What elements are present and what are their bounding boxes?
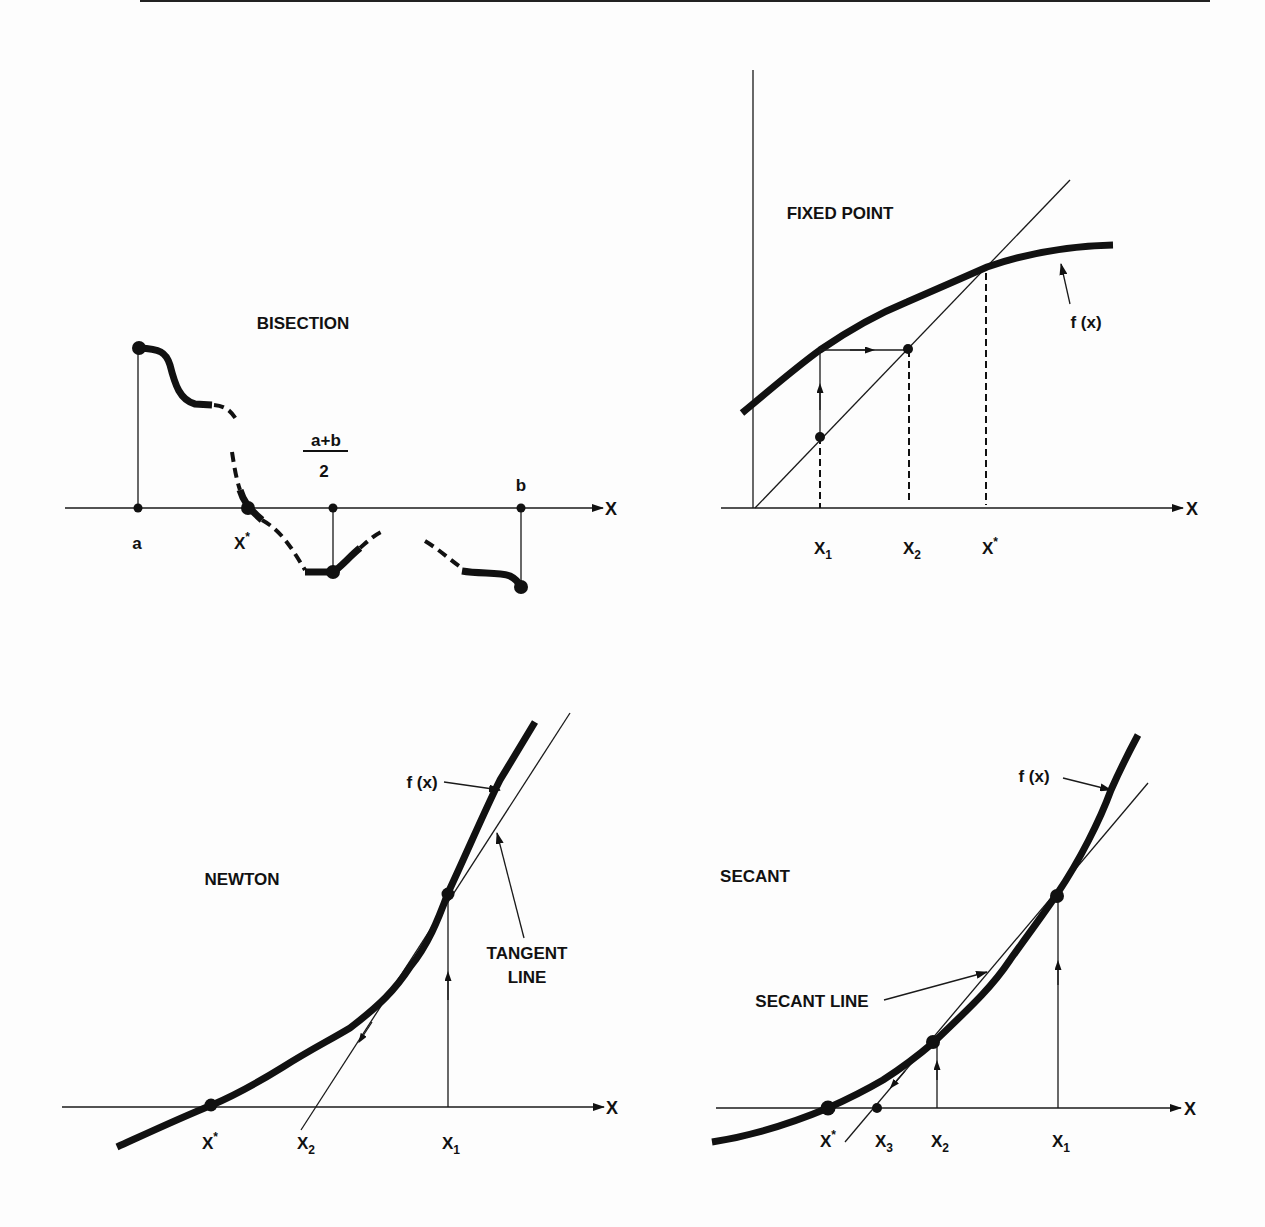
bisection-a-point — [134, 504, 143, 513]
secant-line-label: SECANT LINE — [755, 992, 868, 1011]
bisection-fa-point — [132, 341, 146, 355]
fixed-point-title: FIXED POINT — [787, 204, 894, 223]
fixed-point-curve-label: f (x) — [1070, 313, 1101, 332]
bisection-title: BISECTION — [257, 314, 350, 333]
newton-tangent-label-line2: LINE — [508, 968, 547, 987]
bisection-axis-label: X — [605, 499, 617, 519]
secant-curve — [712, 735, 1138, 1142]
secant-panel: X SECANT f (x) SECANT LINE X* X3 X2 X1 — [712, 735, 1196, 1155]
fixed-point-identity-line — [755, 180, 1070, 508]
fixed-point-axis-label: X — [1186, 499, 1198, 519]
bisection-curve-dashed-3 — [262, 520, 305, 570]
secant-x3-label: X3 — [875, 1132, 893, 1155]
bisection-midpoint-numerator: a+b — [311, 431, 341, 450]
newton-tangent-label-arrow — [497, 833, 524, 938]
bisection-b-label: b — [516, 476, 526, 495]
secant-x3-point — [872, 1103, 882, 1113]
bisection-a-label: a — [132, 534, 142, 553]
newton-axis-label: X — [606, 1098, 618, 1118]
secant-root-label: X* — [820, 1128, 836, 1151]
secant-line-label-arrow — [884, 972, 987, 1000]
newton-x1-point — [442, 888, 455, 901]
newton-curve-label-arrow — [444, 782, 500, 790]
bisection-fmid-point — [326, 565, 340, 579]
figure-svg: BISECTION X a X* a+b 2 b — [0, 0, 1265, 1227]
newton-curve-label: f (x) — [406, 773, 437, 792]
bisection-mid-point — [329, 504, 338, 513]
secant-line — [845, 783, 1148, 1142]
bisection-curve-segment-4 — [462, 571, 521, 587]
newton-root-point — [205, 1099, 218, 1112]
newton-root-label: X* — [202, 1130, 218, 1153]
newton-tangent-label-line1: TANGENT — [487, 944, 569, 963]
newton-panel: X NEWTON f (x) TANGENT LINE X* X2 X1 — [62, 713, 618, 1157]
secant-axis-label: X — [1184, 1099, 1196, 1119]
bisection-root-label: X* — [234, 530, 250, 553]
bisection-curve-dashed-5 — [425, 541, 462, 568]
fixed-point-root-label: X* — [982, 535, 998, 558]
newton-title: NEWTON — [204, 870, 279, 889]
fixed-point-x1-point — [815, 432, 825, 442]
bisection-fb-point — [514, 580, 528, 594]
bisection-curve-dashed-2 — [232, 452, 240, 490]
secant-x1-point — [1050, 889, 1064, 903]
newton-x2-label: X2 — [297, 1134, 315, 1157]
bisection-midpoint-denominator: 2 — [319, 462, 328, 481]
fixed-point-x1-label: X1 — [814, 539, 832, 562]
secant-x2-label: X2 — [931, 1132, 949, 1155]
bisection-root-point — [241, 501, 255, 515]
secant-x1-label: X1 — [1052, 1132, 1070, 1155]
fixed-point-panel: X FIXED POINT f (x) X1 X2 X* — [721, 70, 1198, 562]
bisection-curve-dashed-4 — [360, 532, 381, 548]
fixed-point-curve-label-arrow — [1061, 264, 1070, 304]
secant-x2-point — [926, 1035, 940, 1049]
secant-title: SECANT — [720, 867, 791, 886]
newton-x1-label: X1 — [442, 1134, 460, 1157]
fixed-point-x2-point — [903, 344, 913, 354]
secant-curve-label: f (x) — [1018, 767, 1049, 786]
bisection-curve-dashed-1 — [214, 405, 236, 419]
bisection-b-point — [517, 504, 526, 513]
newton-tangent-arrow — [361, 1022, 372, 1039]
secant-root-point — [821, 1101, 836, 1116]
bisection-panel: BISECTION X a X* a+b 2 b — [65, 314, 617, 594]
figure-root-finding-methods: BISECTION X a X* a+b 2 b — [0, 0, 1265, 1227]
bisection-curve-segment-1 — [139, 348, 212, 405]
secant-curve-label-arrow — [1063, 778, 1111, 790]
fixed-point-x2-label: X2 — [903, 539, 921, 562]
